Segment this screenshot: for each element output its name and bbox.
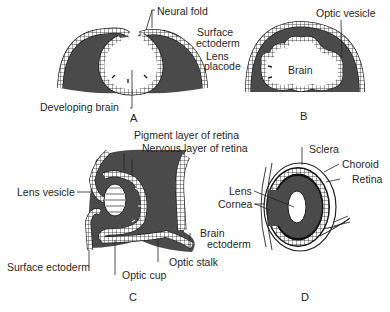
- panel-b-illustration: [248, 20, 362, 92]
- label-pigment-layer: Pigment layer of retina: [134, 130, 239, 141]
- label-nervous-layer: Nervous layer of retina: [142, 143, 248, 154]
- label-optic-stalk: Optic stalk: [169, 257, 218, 268]
- panel-letter-c: C: [129, 291, 137, 303]
- label-retina: Retina: [352, 174, 382, 185]
- label-lens: Lens: [229, 186, 252, 197]
- panel-letter-a: A: [130, 112, 137, 124]
- label-surface-ectoderm-a-line2: ectoderm: [196, 38, 240, 49]
- label-choroid: Choroid: [342, 159, 379, 170]
- panel-letter-d: D: [301, 291, 309, 303]
- label-lens-vesicle: Lens vesicle: [17, 187, 75, 198]
- label-brain: Brain: [288, 65, 313, 76]
- panel-a-illustration: [60, 10, 205, 108]
- label-optic-vesicle: Optic vesicle: [316, 8, 376, 19]
- panel-letter-b: B: [300, 110, 307, 122]
- label-brain-ectoderm-line2: ectoderm: [207, 239, 251, 250]
- panel-d-illustration: [254, 147, 350, 251]
- label-neural-fold: Neural fold: [157, 6, 208, 17]
- label-surface-ectoderm-c: Surface ectoderm: [7, 262, 90, 273]
- label-optic-cup: Optic cup: [122, 270, 166, 281]
- label-lens-placode-line2: placode: [204, 61, 241, 72]
- label-developing-brain: Developing brain: [40, 102, 119, 113]
- label-sclera: Sclera: [309, 144, 339, 155]
- label-cornea: Cornea: [218, 199, 252, 210]
